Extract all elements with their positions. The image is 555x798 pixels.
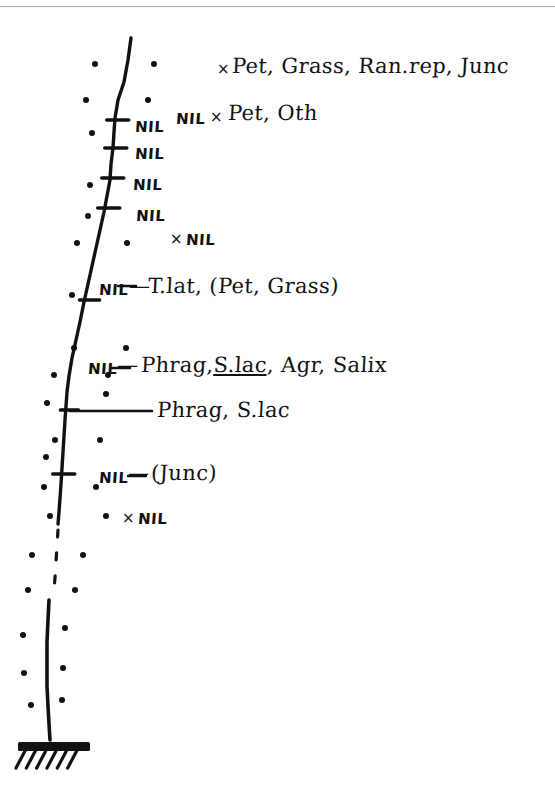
stipple-dot-32 — [28, 702, 34, 708]
cross-icon-second-species: × — [210, 108, 223, 126]
nil-phrag: NIL — [87, 360, 118, 378]
stipple-dot-29 — [62, 625, 68, 631]
nil-loose-1: NIL — [185, 231, 216, 249]
nil-tick-2: NIL — [134, 145, 165, 163]
s-lac-underlined: S.lac — [213, 353, 268, 377]
stipple-dot-28 — [20, 632, 26, 638]
cross-icon-nil-loose-2: × — [122, 509, 135, 527]
nil-tick-4: NIL — [135, 207, 166, 225]
datum-hatch-5 — [57, 751, 66, 768]
nil-junc: NIL — [98, 469, 129, 487]
stipple-dot-22 — [47, 513, 53, 519]
cross-icon-top-species: × — [217, 60, 230, 78]
nil-tlat: NIL — [98, 281, 129, 299]
stipple-dot-23 — [103, 513, 109, 519]
stipple-dot-5 — [89, 130, 95, 136]
nil-label-second-species: NIL — [175, 110, 206, 128]
phrag-short-label: Phrag, S.lac — [156, 398, 290, 422]
stipple-dot-25 — [80, 552, 86, 558]
stipple-dot-17 — [52, 437, 58, 443]
stipple-dot-8 — [74, 240, 80, 246]
stipple-dot-11 — [71, 345, 77, 351]
datum-bar — [18, 742, 90, 751]
stipple-dot-27 — [72, 587, 78, 593]
t-lat-species-label: T.lat, (Pet, Grass) — [147, 274, 339, 298]
stipple-dot-1 — [92, 61, 98, 67]
stipple-dot-13 — [51, 372, 57, 378]
sketch-page: × Pet, Grass, Ran.rep, Junc NIL × Pet, O… — [0, 0, 555, 798]
stipple-dot-10 — [69, 292, 75, 298]
stipple-dot-31 — [60, 665, 66, 671]
stipple-dot-3 — [83, 97, 89, 103]
stipple-dot-24 — [29, 552, 35, 558]
phrag-full-post: , Agr, Salix — [266, 353, 387, 377]
datum-hatch-4 — [47, 751, 56, 768]
stipple-dot-4 — [145, 97, 151, 103]
dash-phrag-full: — — [116, 353, 139, 377]
dash-t-lat: — — [128, 274, 151, 298]
second-species-label: Pet, Oth — [227, 101, 318, 125]
phrag-full-label: Phrag,S.lac, Agr, Salix — [140, 353, 387, 377]
profile-trace-lower — [47, 600, 50, 740]
nil-tick-3: NIL — [132, 176, 163, 194]
stipple-dot-15 — [44, 400, 50, 406]
stipple-dot-9 — [124, 240, 130, 246]
datum-hatch-1 — [16, 751, 25, 768]
stipple-dot-26 — [25, 587, 31, 593]
datum-base-group — [16, 742, 90, 768]
stipple-dot-12 — [123, 345, 129, 351]
stipple-dot-20 — [41, 484, 47, 490]
stipple-dot-30 — [21, 670, 27, 676]
dash-junc: — — [127, 461, 150, 485]
phrag-full-pre: Phrag, — [140, 353, 214, 377]
cross-icon-nil-loose-1: × — [170, 230, 183, 248]
datum-hatch-2 — [26, 751, 35, 768]
junc-label: (Junc) — [150, 461, 217, 485]
stipple-dot-16 — [103, 391, 109, 397]
profile-trace-dashed — [54, 530, 58, 590]
datum-hatch-3 — [37, 751, 46, 768]
datum-hatch-6 — [68, 751, 77, 768]
stipple-dot-18 — [97, 437, 103, 443]
stipple-dot-33 — [59, 697, 65, 703]
stipple-dot-2 — [151, 61, 157, 67]
nil-loose-2: NIL — [137, 510, 168, 528]
stipple-dot-7 — [85, 213, 91, 219]
stipple-dot-19 — [43, 454, 49, 460]
stipple-dot-6 — [87, 182, 93, 188]
nil-tick-1: NIL — [134, 118, 165, 136]
profile-trace-group — [47, 38, 131, 740]
top-species-label: Pet, Grass, Ran.rep, Junc — [231, 54, 509, 78]
